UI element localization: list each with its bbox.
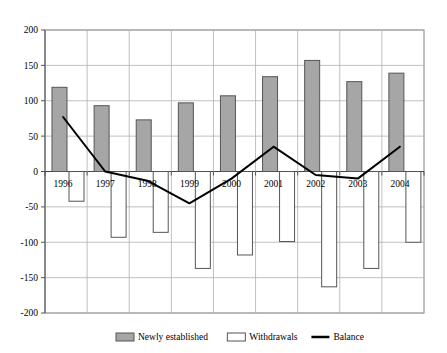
category-label: 2003 [348, 179, 367, 189]
category-label: 2002 [306, 179, 325, 189]
category-labels: 199619971998199920002001200220032004 [54, 179, 410, 189]
y-tick-label: 50 [29, 132, 39, 142]
bar-newly-established [347, 82, 362, 172]
y-tick-label: 150 [24, 61, 39, 71]
legend-label: Withdrawals [249, 332, 297, 342]
bar-newly-established [178, 103, 193, 172]
legend-label: Newly established [138, 332, 208, 342]
y-tick-label: -150 [21, 273, 39, 283]
bar-newly-established [389, 73, 404, 171]
legend-item: Newly established [116, 332, 208, 342]
y-tick-label: -50 [25, 202, 38, 212]
bar-newly-established [136, 120, 151, 172]
y-tick-label: 100 [24, 96, 39, 106]
category-label: 1997 [96, 179, 115, 189]
y-tick-label: -200 [21, 308, 39, 318]
bar-withdrawals [322, 172, 337, 287]
category-label: 1996 [54, 179, 73, 189]
category-label: 2001 [264, 179, 283, 189]
legend-item: Withdrawals [227, 332, 297, 342]
y-tick-label: 200 [24, 25, 39, 35]
category-label: 1999 [180, 179, 199, 189]
category-label: 2004 [390, 179, 409, 189]
y-tick-label: 0 [33, 167, 38, 177]
legend-swatch-newly-established [116, 333, 134, 341]
chart-container: 200150100500-50-100-150-200 199619971998… [0, 0, 447, 353]
bar-newly-established [220, 96, 235, 172]
y-tick-label: -100 [21, 238, 39, 248]
bar-newly-established [305, 60, 320, 171]
bar-line-combo-chart: 200150100500-50-100-150-200 199619971998… [0, 0, 447, 353]
legend-label: Balance [333, 332, 364, 342]
legend-swatch-withdrawals [227, 333, 245, 341]
bar-newly-established [263, 77, 278, 172]
bar-newly-established [52, 87, 67, 171]
